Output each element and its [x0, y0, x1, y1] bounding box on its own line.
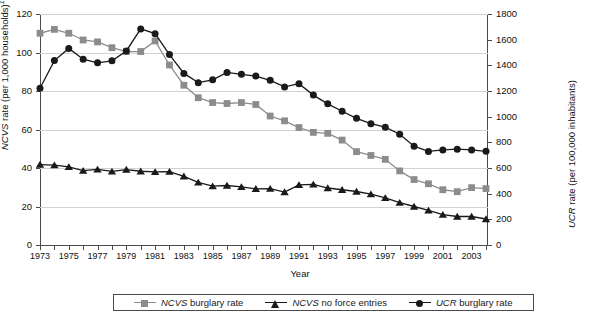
- y-axis-right-tick-label: 1400: [496, 60, 517, 70]
- y-axis-right-tick: [488, 194, 492, 195]
- x-axis-tick: [472, 246, 473, 250]
- x-axis-tick-label: 1983: [174, 252, 194, 261]
- y-axis-right-tick: [488, 117, 492, 118]
- y-axis-right-tick-label: 600: [496, 163, 512, 173]
- x-axis-tick: [385, 246, 386, 250]
- x-axis-tick-label: 1991: [289, 252, 309, 261]
- x-axis-tick: [342, 246, 343, 250]
- x-axis-tick-label: 1975: [59, 252, 79, 261]
- triangle-marker-icon: [265, 297, 287, 308]
- y-axis-right-tick: [488, 168, 492, 169]
- x-axis-tick: [126, 246, 127, 250]
- x-axis-tick: [112, 246, 113, 250]
- x-axis-tick: [428, 246, 429, 250]
- x-axis-tick-label: 1997: [375, 252, 395, 261]
- legend-item[interactable]: NCVS no force entries: [265, 297, 387, 308]
- x-axis-tick-label: 1977: [88, 252, 108, 261]
- x-axis-tick: [169, 246, 170, 250]
- x-axis-tick: [213, 246, 214, 250]
- y-axis-left-tick-label: 20: [0, 202, 32, 212]
- x-axis-tick: [54, 246, 55, 250]
- x-axis-tick-label: 1973: [30, 252, 50, 261]
- legend-item[interactable]: UCR burglary rate: [409, 297, 513, 308]
- legend-item[interactable]: NCVS burglary rate: [134, 297, 243, 308]
- x-axis-tick-label: 1995: [347, 252, 367, 261]
- legend-label: UCR burglary rate: [436, 298, 513, 308]
- x-axis-tick: [285, 246, 286, 250]
- x-axis-tick: [357, 246, 358, 250]
- x-axis-tick: [184, 246, 185, 250]
- x-axis-tick: [313, 246, 314, 250]
- y-axis-right-tick-label: 1800: [496, 9, 517, 19]
- y-axis-left-title: NCVS rate (per 1,000 households)1: [0, 0, 10, 150]
- y-axis-left-tick: [36, 168, 40, 169]
- y-axis-right-tick-label: 400: [496, 189, 512, 199]
- x-axis-tick-label: 1993: [318, 252, 338, 261]
- x-axis-tick: [328, 246, 329, 250]
- gridline: [40, 207, 488, 208]
- chart-legend: NCVS burglary rateNCVS no force entriesU…: [113, 294, 534, 311]
- x-axis-tick-label: 2003: [462, 252, 482, 261]
- x-axis-tick: [83, 246, 84, 250]
- y-axis-left-tick: [36, 130, 40, 131]
- y-axis-right-title: UCR rate (per 100,000 inhabitants): [566, 80, 577, 228]
- square-marker-icon: [134, 297, 156, 308]
- y-axis-right-tick: [488, 219, 492, 220]
- gridline: [40, 53, 488, 54]
- y-axis-right-tick-label: 200: [496, 214, 512, 224]
- y-axis-right-tick-label: 1600: [496, 35, 517, 45]
- y-axis-right-tick: [488, 65, 492, 66]
- x-axis-tick: [198, 246, 199, 250]
- x-axis-tick-label: 1987: [231, 252, 251, 261]
- x-axis-tick: [457, 246, 458, 250]
- x-axis-tick-label: 1979: [116, 252, 136, 261]
- y-axis-right-tick: [488, 40, 492, 41]
- y-axis-left-tick: [36, 14, 40, 15]
- x-axis-tick: [443, 246, 444, 250]
- gridline: [40, 168, 488, 169]
- legend-label: NCVS no force entries: [292, 298, 387, 308]
- legend-label: NCVS burglary rate: [161, 298, 243, 308]
- x-axis-tick: [69, 246, 70, 250]
- x-axis-tick: [486, 246, 487, 250]
- x-axis-title: Year: [290, 268, 309, 279]
- y-axis-left-tick: [36, 207, 40, 208]
- burglary-rate-trend-chart: 0204060801001200200400600800100012001400…: [0, 0, 600, 318]
- x-axis-tick: [414, 246, 415, 250]
- gridline: [40, 130, 488, 131]
- x-axis-tick-label: 1989: [260, 252, 280, 261]
- x-axis-tick-label: 1999: [404, 252, 424, 261]
- x-axis-tick-label: 1981: [145, 252, 165, 261]
- y-axis-right-tick: [488, 142, 492, 143]
- y-axis-right-tick-label: 1000: [496, 112, 517, 122]
- x-axis-line: [40, 245, 488, 246]
- y-axis-left-tick-label: 0: [0, 240, 32, 250]
- y-axis-right-tick-label: 0: [496, 240, 501, 250]
- y-axis-left-tick-label: 40: [0, 163, 32, 173]
- y-axis-right-tick-label: 1200: [496, 86, 517, 96]
- x-axis-tick: [40, 246, 41, 250]
- x-axis-tick: [155, 246, 156, 250]
- x-axis-tick-label: 1985: [203, 252, 223, 261]
- y-axis-right-tick: [488, 245, 492, 246]
- x-axis-tick: [256, 246, 257, 250]
- y-axis-left-tick: [36, 53, 40, 54]
- y-axis-right-tick: [488, 91, 492, 92]
- plot-area: [40, 14, 488, 246]
- y-axis-right-tick-label: 800: [496, 137, 512, 147]
- x-axis-tick: [299, 246, 300, 250]
- gridline: [40, 91, 488, 92]
- x-axis-tick: [270, 246, 271, 250]
- x-axis-tick-label: 2001: [433, 252, 453, 261]
- x-axis-tick: [400, 246, 401, 250]
- x-axis-tick: [371, 246, 372, 250]
- circle-marker-icon: [409, 297, 431, 308]
- y-axis-right-tick: [488, 14, 492, 15]
- gridline: [40, 14, 488, 15]
- x-axis-tick: [241, 246, 242, 250]
- x-axis-tick: [141, 246, 142, 250]
- x-axis-tick: [227, 246, 228, 250]
- y-axis-left-tick: [36, 91, 40, 92]
- x-axis-tick: [98, 246, 99, 250]
